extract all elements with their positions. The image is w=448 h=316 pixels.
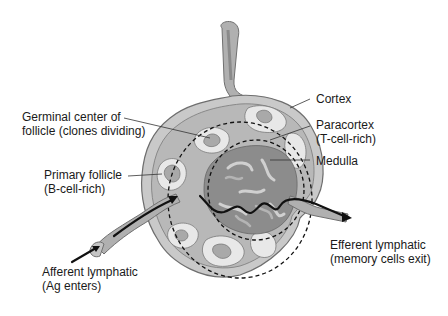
label-afferent-line1: Afferent lymphatic	[42, 265, 138, 279]
top-vessel	[221, 21, 250, 104]
label-efferent-lymphatic: Efferent lymphatic (memory cells exit)	[330, 238, 431, 266]
label-efferent-line1: Efferent lymphatic	[330, 238, 431, 252]
label-germinal-center-line1: Germinal center of	[22, 110, 145, 124]
label-paracortex-line2: (T-cell-rich)	[316, 132, 376, 146]
label-paracortex: Paracortex (T-cell-rich)	[316, 118, 376, 146]
label-medulla-line1: Medulla	[316, 154, 358, 168]
label-primary-follicle-line2: (B-cell-rich)	[44, 182, 122, 196]
label-primary-follicle: Primary follicle (B-cell-rich)	[44, 168, 122, 196]
label-efferent-line2: (memory cells exit)	[330, 252, 431, 266]
label-cortex: Cortex	[316, 92, 351, 106]
label-paracortex-line1: Paracortex	[316, 118, 376, 132]
label-germinal-center: Germinal center of follicle (clones divi…	[22, 110, 145, 138]
label-primary-follicle-line1: Primary follicle	[44, 168, 122, 182]
label-afferent-lymphatic: Afferent lymphatic (Ag enters)	[42, 265, 138, 293]
label-medulla: Medulla	[316, 154, 358, 168]
label-germinal-center-line2: follicle (clones dividing)	[22, 124, 145, 138]
label-cortex-line1: Cortex	[316, 92, 351, 106]
label-afferent-line2: (Ag enters)	[42, 279, 138, 293]
